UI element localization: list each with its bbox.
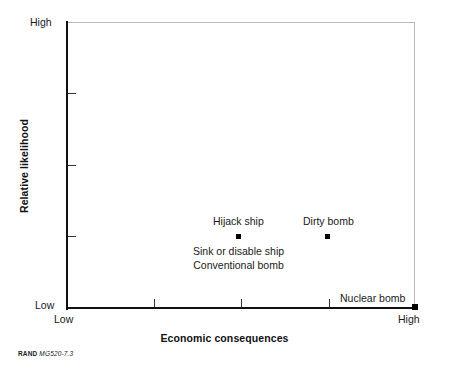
y-axis-high-label: High bbox=[30, 16, 52, 28]
source-publisher: RAND bbox=[18, 350, 37, 357]
y-axis-title: Relative likelihood bbox=[18, 96, 30, 236]
x-axis-tick bbox=[241, 299, 242, 307]
data-label-sink-or-disable-ship: Sink or disable ship bbox=[193, 245, 284, 259]
data-label-hijack-ship: Hijack ship bbox=[213, 215, 264, 228]
y-axis-low-label: Low bbox=[35, 299, 54, 311]
y-axis-tick bbox=[68, 165, 76, 166]
x-axis-title: Economic consequences bbox=[0, 332, 449, 344]
x-axis-high-label: High bbox=[398, 313, 420, 325]
data-label-nuclear-bomb: Nuclear bomb bbox=[340, 292, 405, 305]
x-axis-low-label: Low bbox=[54, 313, 73, 325]
data-point-nuclear-bomb[interactable] bbox=[412, 304, 418, 310]
x-axis-line bbox=[66, 307, 416, 309]
data-label-dirty-bomb: Dirty bomb bbox=[303, 215, 354, 228]
y-axis-tick bbox=[68, 93, 76, 94]
data-point-dirty-bomb[interactable] bbox=[325, 234, 330, 239]
data-label-group-shared: Sink or disable ship Conventional bomb bbox=[193, 245, 284, 272]
figure-source-line: RAND MG520-7.3 bbox=[18, 350, 73, 357]
x-axis-tick bbox=[154, 299, 155, 307]
data-label-conventional-bomb: Conventional bomb bbox=[193, 259, 284, 273]
data-point-hijack-ship[interactable] bbox=[236, 234, 241, 239]
y-axis-tick bbox=[68, 236, 76, 237]
x-axis-tick bbox=[329, 299, 330, 307]
figure-container: High Low Low High Relative likelihood Ec… bbox=[0, 0, 449, 370]
source-document-id: MG520-7.3 bbox=[39, 350, 73, 357]
